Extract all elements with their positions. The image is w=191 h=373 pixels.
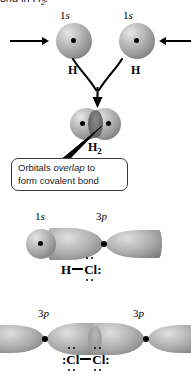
hcl-cl-lone-pair-right: : xyxy=(97,262,101,277)
approach-arrow-right xyxy=(159,37,191,45)
hcl-lewis-atom-cl-group: Cl xyxy=(84,262,97,278)
cl2-lewis-atom1: Cl xyxy=(66,352,79,367)
cl2-atom2-lone-pair-bottom xyxy=(94,369,101,371)
nucleus-dot-right xyxy=(134,38,139,43)
cl2-atom1-lone-pair-top xyxy=(68,347,75,349)
cl2-atom1-lone-pair-bottom xyxy=(68,369,75,371)
cl2-lewis-atom2: Cl xyxy=(92,352,105,367)
h2-left-orbital-label: 1s xyxy=(60,9,70,21)
hcl-p-orbital-right-lobe xyxy=(106,230,162,258)
h2-right-orbital-letter: s xyxy=(129,9,133,21)
cl2-atom2-lone-pair-top xyxy=(94,347,101,349)
arrow-right-head-icon xyxy=(42,37,49,45)
hcl-cl-lone-pair-bottom xyxy=(86,279,93,281)
covalent-bond-orbital-overlap-figure: ond in H2. 1s 1s H H H2 xyxy=(0,0,191,373)
nucleus-dot-left xyxy=(71,38,76,43)
hcl-h-nucleus-dot xyxy=(38,241,43,246)
cl2-right-nucleus-dot xyxy=(143,336,149,342)
cl2-lewis-bond-dash xyxy=(80,358,91,360)
approach-arrow-left xyxy=(10,37,49,45)
cl2-left-p-orbital-outer-lobe xyxy=(0,325,44,353)
h2-right-orbital-label: 1s xyxy=(123,9,133,21)
callout-text: Orbitals overlap to form covalent bond xyxy=(18,161,126,187)
cl2-lewis-atom2-group: Cl xyxy=(92,352,105,368)
cl2-left-nucleus-dot xyxy=(42,336,48,342)
cl2-right-orbital-label: 3p xyxy=(133,307,144,319)
callout-pointer-line-icon xyxy=(58,125,104,161)
callout-line1-post: to xyxy=(85,162,96,173)
cl2-left-orbital-label: 3p xyxy=(38,307,49,319)
callout-line1-emphasis: overlap xyxy=(53,162,84,173)
h2-nucleus-dot-right xyxy=(106,121,111,126)
arrow-left-head-icon xyxy=(159,37,166,45)
caption-tail-period: . xyxy=(45,0,48,4)
cl2-atom2-lone-pair-right: : xyxy=(105,352,109,367)
hcl-right-orbital-letter: p xyxy=(102,210,108,222)
caption-tail-text: ond in H xyxy=(0,0,41,4)
hcl-lewis-bond-dash xyxy=(72,268,83,270)
cl2-right-p-orbital-outer-lobe xyxy=(148,325,191,353)
cl2-right-orbital-letter: p xyxy=(139,307,145,319)
cl2-left-orbital-letter: p xyxy=(44,307,50,319)
hcl-lewis-atom-h: H xyxy=(61,262,71,277)
h2-left-orbital-letter: s xyxy=(66,9,70,21)
hcl-cl-nucleus-dot xyxy=(101,241,107,247)
arrow-right-shaft xyxy=(10,40,42,42)
cl2-lewis-structure: :ClCl: xyxy=(62,352,110,368)
hcl-left-orbital-letter: s xyxy=(41,210,45,222)
cl2-lewis-atom1-group: Cl xyxy=(66,352,79,368)
figure-caption-tail: ond in H2. xyxy=(0,0,120,8)
hcl-lewis-structure: HCl: xyxy=(61,262,101,278)
hcl-right-orbital-label: 3p xyxy=(96,210,107,222)
arrow-left-shaft xyxy=(166,40,191,42)
hcl-left-orbital-label: 1s xyxy=(35,210,45,222)
hcl-lewis-atom-cl: Cl xyxy=(84,262,97,277)
curved-converging-arrow-icon xyxy=(55,57,140,109)
hcl-cl-lone-pair-top xyxy=(86,257,93,259)
callout-line2: form covalent bond xyxy=(18,175,99,186)
callout-line1-pre: Orbitals xyxy=(18,162,53,173)
